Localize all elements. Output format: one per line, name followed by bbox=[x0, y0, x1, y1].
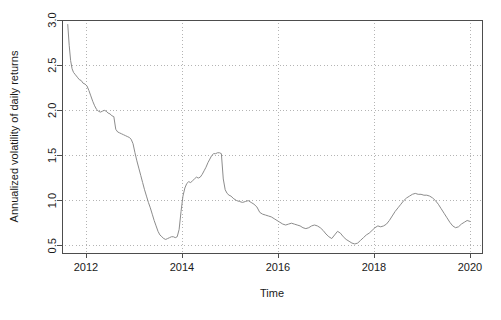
x-axis-title: Time bbox=[260, 287, 284, 299]
y-tick-label-2.5: 2.5 bbox=[46, 58, 58, 73]
x-tick-label-2016: 2016 bbox=[266, 261, 290, 273]
y-tick-label-1.0: 1.0 bbox=[46, 193, 58, 208]
x-tick-label-2018: 2018 bbox=[362, 261, 386, 273]
volatility-line-chart: 0.51.01.52.02.53.0 20122014201620182020 … bbox=[0, 0, 501, 320]
chart-container: 0.51.01.52.02.53.0 20122014201620182020 … bbox=[0, 0, 501, 320]
y-tick-label-1.5: 1.5 bbox=[46, 148, 58, 163]
y-tick-label-0.5: 0.5 bbox=[46, 238, 58, 253]
x-tick-label-2020: 2020 bbox=[458, 261, 482, 273]
y-axis-title: Annualized volatility of daily returns bbox=[8, 50, 20, 222]
y-tick-label-3.0: 3.0 bbox=[46, 12, 58, 27]
y-tick-label-2.0: 2.0 bbox=[46, 103, 58, 118]
x-tick-label-2012: 2012 bbox=[74, 261, 98, 273]
x-tick-label-2014: 2014 bbox=[170, 261, 194, 273]
